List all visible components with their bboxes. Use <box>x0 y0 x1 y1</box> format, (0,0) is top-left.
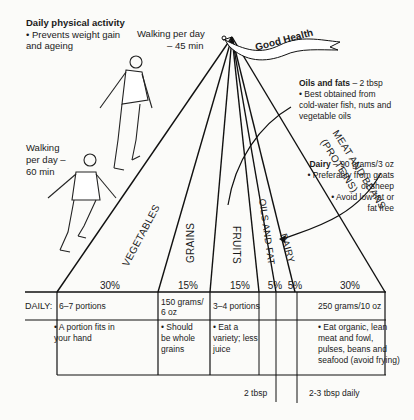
walking-45-label-1: Walking per day <box>137 28 205 39</box>
note-vegetables-2: your hand <box>54 333 92 343</box>
amount-fruits: 3–4 portions <box>213 301 260 311</box>
walking-60-label-3: 60 min <box>26 166 55 177</box>
amount-grains-1: 150 grams/ <box>161 297 204 307</box>
percent-grains: 15% <box>168 280 208 291</box>
note-meat-2: meat and fowl, <box>318 333 373 343</box>
daily-label: DAILY: <box>25 301 52 311</box>
walking-45-label-2: – 45 min <box>167 40 203 51</box>
activity-bullet: • Prevents weight gain and ageing <box>26 29 126 51</box>
note-grains-1: • Should <box>161 322 193 332</box>
percent-vegetables: 30% <box>90 280 130 291</box>
walking-60-label-2: per day – <box>26 154 66 165</box>
note-fruits-2: variety; less <box>213 333 258 343</box>
segment-label-grains: GRAINS <box>185 223 196 263</box>
footer-oils: 2 tbsp <box>244 388 267 398</box>
amount-meat: 250 grams/10 oz <box>318 301 381 311</box>
note-grains-2: be whole <box>161 333 195 343</box>
oils-note-line1: • Best obtained from <box>299 89 376 99</box>
activity-title: Daily physical activity <box>26 17 125 28</box>
percent-fruits: 15% <box>220 280 260 291</box>
note-fruits-3: juice <box>213 344 230 354</box>
walking-boy-figure <box>48 154 116 252</box>
oils-note-title: Oils and fats – 2 tbsp <box>299 78 383 88</box>
note-fruits-1: • Eat a <box>213 322 238 332</box>
percent-dairy: 5% <box>285 280 305 291</box>
percent-oils: 5% <box>265 280 285 291</box>
note-meat-1: • Eat organic, lean <box>318 322 387 332</box>
walking-man-figure <box>100 56 152 170</box>
oils-note-line3: vegetable oils <box>299 111 351 121</box>
footer-dairy: 2-3 tbsp daily <box>309 388 360 398</box>
amount-vegetables: 6–7 portions <box>59 301 106 311</box>
note-grains-3: grains <box>161 344 184 354</box>
oils-note-line2: cold-water fish, nuts and <box>299 100 391 110</box>
percent-meat: 30% <box>330 280 370 291</box>
segment-label-fruits: FRUITS <box>231 226 242 264</box>
note-meat-3: pulses, beans and <box>318 344 387 354</box>
walking-60-label-1: Walking <box>26 142 59 153</box>
note-vegetables-1: • A portion fits in <box>54 322 115 332</box>
note-meat-4: seafood (avoid frying) <box>318 355 400 365</box>
amount-grains-2: 6 oz <box>161 307 177 317</box>
